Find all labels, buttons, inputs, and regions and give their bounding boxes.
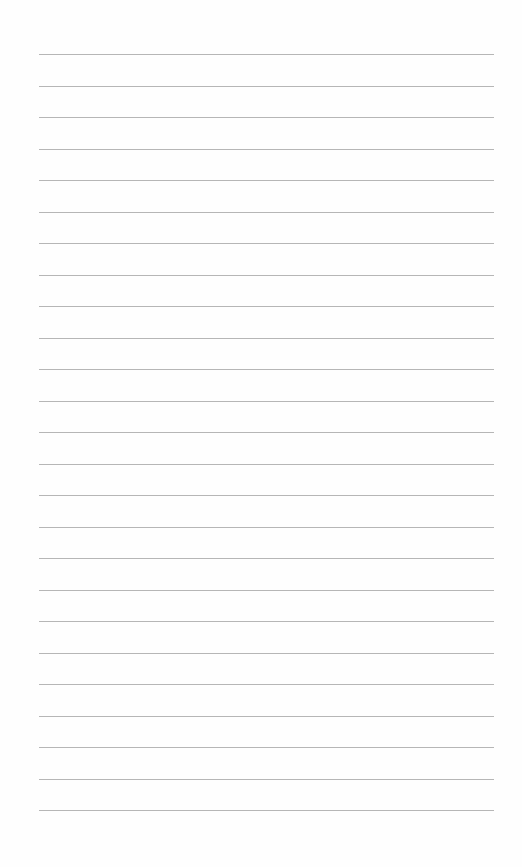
lined-paper-page xyxy=(0,0,522,867)
ruled-line xyxy=(39,464,494,465)
ruled-line xyxy=(39,653,494,654)
ruled-line xyxy=(39,810,494,811)
ruled-line xyxy=(39,401,494,402)
ruled-line xyxy=(39,779,494,780)
ruled-line xyxy=(39,54,494,55)
ruled-line xyxy=(39,590,494,591)
ruled-line xyxy=(39,558,494,559)
ruled-line xyxy=(39,212,494,213)
ruled-line xyxy=(39,149,494,150)
ruled-line xyxy=(39,338,494,339)
ruled-line xyxy=(39,432,494,433)
ruled-line xyxy=(39,86,494,87)
ruled-line xyxy=(39,306,494,307)
ruled-line xyxy=(39,275,494,276)
ruled-line xyxy=(39,527,494,528)
ruled-line xyxy=(39,369,494,370)
ruled-line xyxy=(39,716,494,717)
ruled-line xyxy=(39,243,494,244)
ruled-line xyxy=(39,495,494,496)
ruled-line xyxy=(39,684,494,685)
ruled-line xyxy=(39,117,494,118)
ruled-line xyxy=(39,621,494,622)
ruled-line xyxy=(39,180,494,181)
ruled-line xyxy=(39,747,494,748)
